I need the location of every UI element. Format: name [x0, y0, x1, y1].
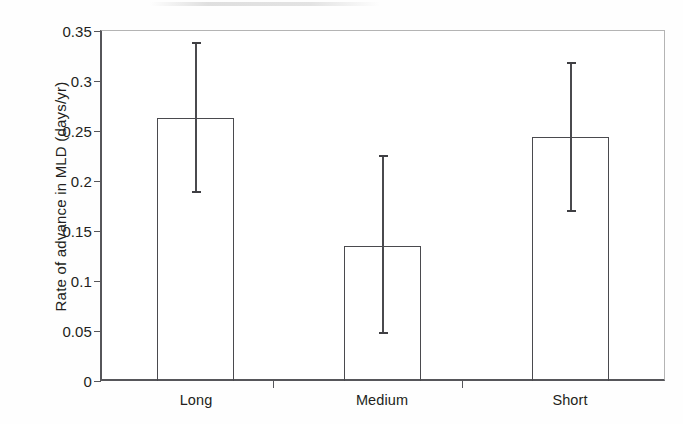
error-bar-cap-upper [567, 62, 576, 64]
error-bar-medium [373, 155, 393, 334]
error-bar-short [561, 62, 581, 212]
y-tick-label-0.25: 0.25 [40, 124, 92, 139]
error-bar-stem [382, 155, 383, 334]
error-bar-cap-lower [379, 332, 388, 334]
error-bar-long [186, 42, 206, 193]
error-bar-cap-upper [192, 42, 201, 44]
x-tick-mark-2 [462, 381, 463, 388]
x-category-label-medium: Medium [332, 392, 432, 408]
y-tick-label-0.35: 0.35 [40, 24, 92, 39]
y-tick-label-0.2: 0.2 [40, 174, 92, 189]
error-bar-stem [195, 42, 196, 193]
error-bar-stem [570, 62, 571, 212]
y-tick-label-0.3: 0.3 [40, 74, 92, 89]
error-bar-cap-lower [567, 210, 576, 212]
y-tick-label-0.1: 0.1 [40, 274, 92, 289]
scan-artifact [150, 2, 380, 6]
error-bar-cap-lower [192, 191, 201, 193]
y-tick-label-0.05: 0.05 [40, 324, 92, 339]
y-tick-label-0: 0 [40, 374, 92, 389]
x-category-label-long: Long [146, 392, 246, 408]
bar-chart-figure: Rate of advance in MLD (days/yr) 0.35 0.… [0, 0, 683, 424]
x-tick-mark-1 [273, 381, 274, 388]
y-tick-mark-0 [94, 381, 101, 382]
y-tick-label-0.15: 0.15 [40, 224, 92, 239]
error-bar-cap-upper [379, 155, 388, 157]
x-category-label-short: Short [520, 392, 620, 408]
